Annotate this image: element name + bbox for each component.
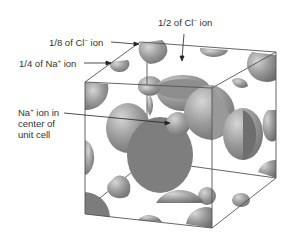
label-half-cl-ion: 1/2 of Cl− ion bbox=[158, 17, 212, 28]
label-eighth-cl-ion: 1/8 of Cl− ion bbox=[49, 37, 103, 48]
label-quarter-na-ion: 1/4 of Na+ ion bbox=[19, 58, 76, 69]
label-center-na-ion: Na+ ion in center of unit cell bbox=[18, 107, 59, 140]
